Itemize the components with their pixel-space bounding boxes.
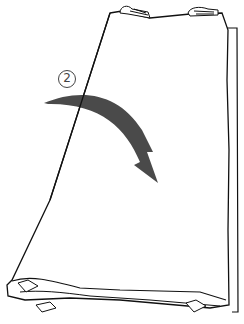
fabric-illustration: [0, 0, 244, 324]
fabric-body: [7, 11, 229, 308]
top-tie-right: [188, 7, 218, 16]
step-number-badge: 2: [58, 70, 76, 88]
folding-diagram: 2: [0, 0, 244, 324]
